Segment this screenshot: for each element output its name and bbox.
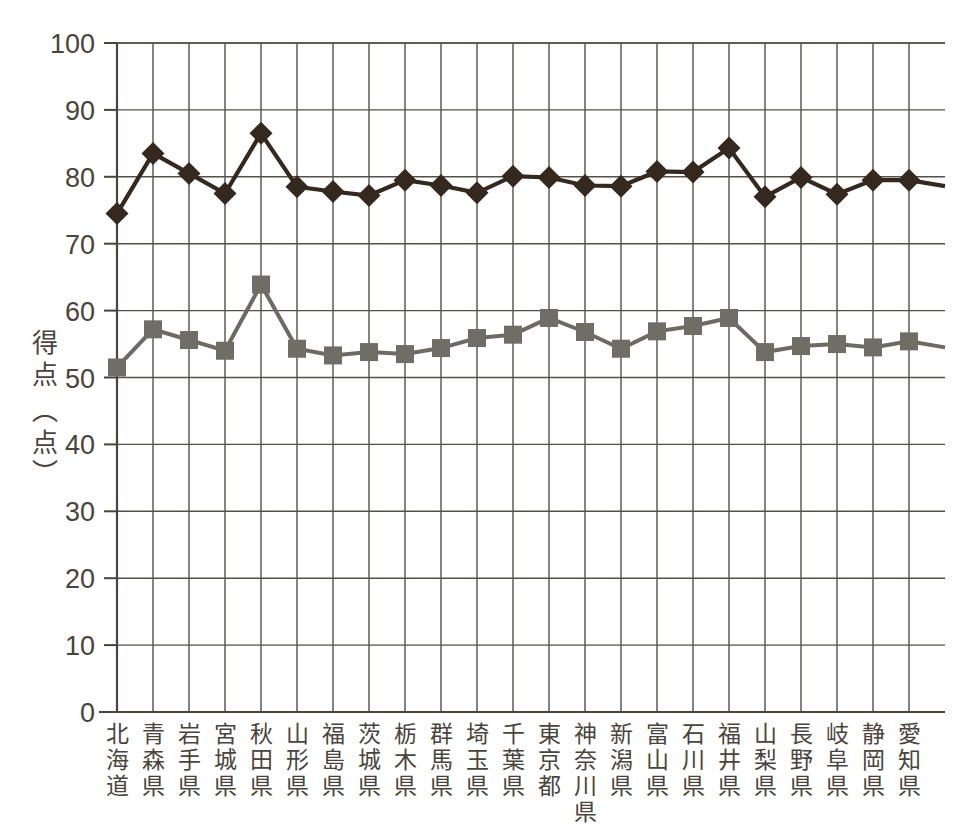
y-axis-title-char-0: 得 [32, 328, 58, 358]
svg-text:石: 石 [682, 721, 705, 747]
ytick-label-30: 30 [65, 497, 95, 527]
svg-text:山: 山 [754, 721, 777, 747]
xtick-label-0: 北海道 [106, 721, 129, 799]
svg-text:富: 富 [646, 721, 669, 747]
svg-text:茨: 茨 [358, 721, 381, 747]
svg-text:潟: 潟 [610, 747, 633, 773]
y-axis-title-unit: ︵ [32, 396, 58, 426]
xtick-label-8: 栃木県 [394, 721, 417, 799]
data-point-lower-15 [648, 322, 666, 340]
svg-text:都: 都 [538, 773, 561, 799]
xtick-label-9: 群馬県 [430, 721, 453, 799]
data-point-lower-12 [540, 309, 558, 327]
svg-text:県: 県 [394, 773, 417, 799]
data-point-lower-5 [288, 340, 306, 358]
svg-text:県: 県 [430, 773, 453, 799]
ytick-label-0: 0 [80, 698, 95, 728]
svg-text:川: 川 [574, 773, 597, 799]
svg-text:井: 井 [718, 747, 741, 773]
svg-text:静: 静 [862, 721, 885, 747]
svg-text:県: 県 [250, 773, 273, 799]
xtick-label-15: 富山県 [646, 721, 669, 799]
svg-text:県: 県 [898, 773, 921, 799]
svg-text:県: 県 [574, 799, 597, 825]
data-point-upper-14 [610, 175, 633, 198]
ytick-label-100: 100 [50, 29, 95, 59]
data-point-lower-4 [252, 276, 270, 294]
data-point-lower-22 [900, 332, 918, 350]
data-point-upper-3 [214, 182, 237, 205]
svg-text:川: 川 [682, 747, 705, 773]
svg-text:県: 県 [718, 773, 741, 799]
svg-text:手: 手 [178, 747, 201, 773]
svg-text:城: 城 [214, 747, 237, 773]
svg-text:県: 県 [646, 773, 669, 799]
svg-text:島: 島 [322, 747, 345, 773]
xtick-label-5: 山形県 [286, 721, 309, 799]
data-point-lower-21 [864, 338, 882, 356]
data-point-lower-16 [684, 317, 702, 335]
svg-text:千: 千 [502, 721, 525, 747]
data-point-lower-1 [144, 320, 162, 338]
xtick-label-21: 静岡県 [862, 721, 885, 799]
svg-text:葉: 葉 [502, 747, 525, 773]
data-point-upper-2 [178, 162, 201, 185]
svg-text:県: 県 [214, 773, 237, 799]
data-point-lower-7 [360, 343, 378, 361]
svg-text:神: 神 [574, 721, 597, 747]
svg-text:道: 道 [106, 773, 129, 799]
data-point-upper-11 [502, 165, 525, 188]
svg-text:田: 田 [250, 747, 273, 773]
data-point-upper-15 [646, 160, 669, 183]
y-axis-title: 得点︵点︶ [32, 328, 58, 488]
ytick-label-90: 90 [65, 96, 95, 126]
svg-text:︶: ︶ [32, 458, 58, 488]
svg-text:阜: 阜 [826, 747, 849, 773]
data-point-upper-0 [106, 202, 129, 225]
chart-container: 0102030405060708090100 北海道青森県岩手県宮城県秋田県山形… [0, 0, 957, 838]
svg-text:秋: 秋 [250, 721, 273, 747]
data-point-lower-9 [432, 339, 450, 357]
data-point-lower-20 [828, 335, 846, 353]
svg-text:山: 山 [646, 747, 669, 773]
xtick-label-19: 長野県 [790, 721, 813, 799]
data-point-upper-7 [358, 184, 381, 207]
svg-text:県: 県 [610, 773, 633, 799]
xtick-label-14: 新潟県 [610, 721, 633, 799]
svg-text:岩: 岩 [178, 721, 201, 747]
xtick-label-3: 宮城県 [214, 721, 237, 799]
svg-text:青: 青 [142, 721, 165, 747]
line-chart: 0102030405060708090100 北海道青森県岩手県宮城県秋田県山形… [0, 0, 957, 838]
ytick-label-80: 80 [65, 163, 95, 193]
svg-text:県: 県 [466, 773, 489, 799]
svg-text:県: 県 [826, 773, 849, 799]
svg-text:知: 知 [898, 747, 921, 773]
xtick-label-4: 秋田県 [250, 721, 273, 799]
series-lower-line [117, 285, 945, 368]
data-point-lower-17 [720, 309, 738, 327]
svg-text:森: 森 [142, 747, 165, 773]
svg-text:県: 県 [322, 773, 345, 799]
data-point-upper-1 [142, 142, 165, 165]
svg-text:愛: 愛 [898, 721, 921, 747]
svg-text:北: 北 [106, 721, 129, 747]
svg-text:群: 群 [430, 721, 453, 747]
y-axis-tick-marks [104, 43, 117, 712]
svg-text:県: 県 [286, 773, 309, 799]
data-point-lower-18 [756, 343, 774, 361]
xtick-label-12: 東京都 [538, 721, 561, 799]
data-point-upper-22 [898, 169, 921, 192]
data-point-lower-2 [180, 331, 198, 349]
series-lower-path [117, 285, 945, 368]
xtick-label-11: 千葉県 [502, 721, 525, 799]
svg-text:東: 東 [538, 721, 561, 747]
svg-text:栃: 栃 [394, 721, 417, 747]
xtick-label-17: 福井県 [718, 721, 741, 799]
xtick-label-2: 岩手県 [178, 721, 201, 799]
svg-text:新: 新 [610, 721, 633, 747]
data-point-upper-6 [322, 180, 345, 203]
svg-text:木: 木 [394, 747, 417, 773]
svg-text:岡: 岡 [862, 747, 885, 773]
xtick-label-22: 愛知県 [898, 721, 921, 799]
data-point-upper-5 [286, 175, 309, 198]
